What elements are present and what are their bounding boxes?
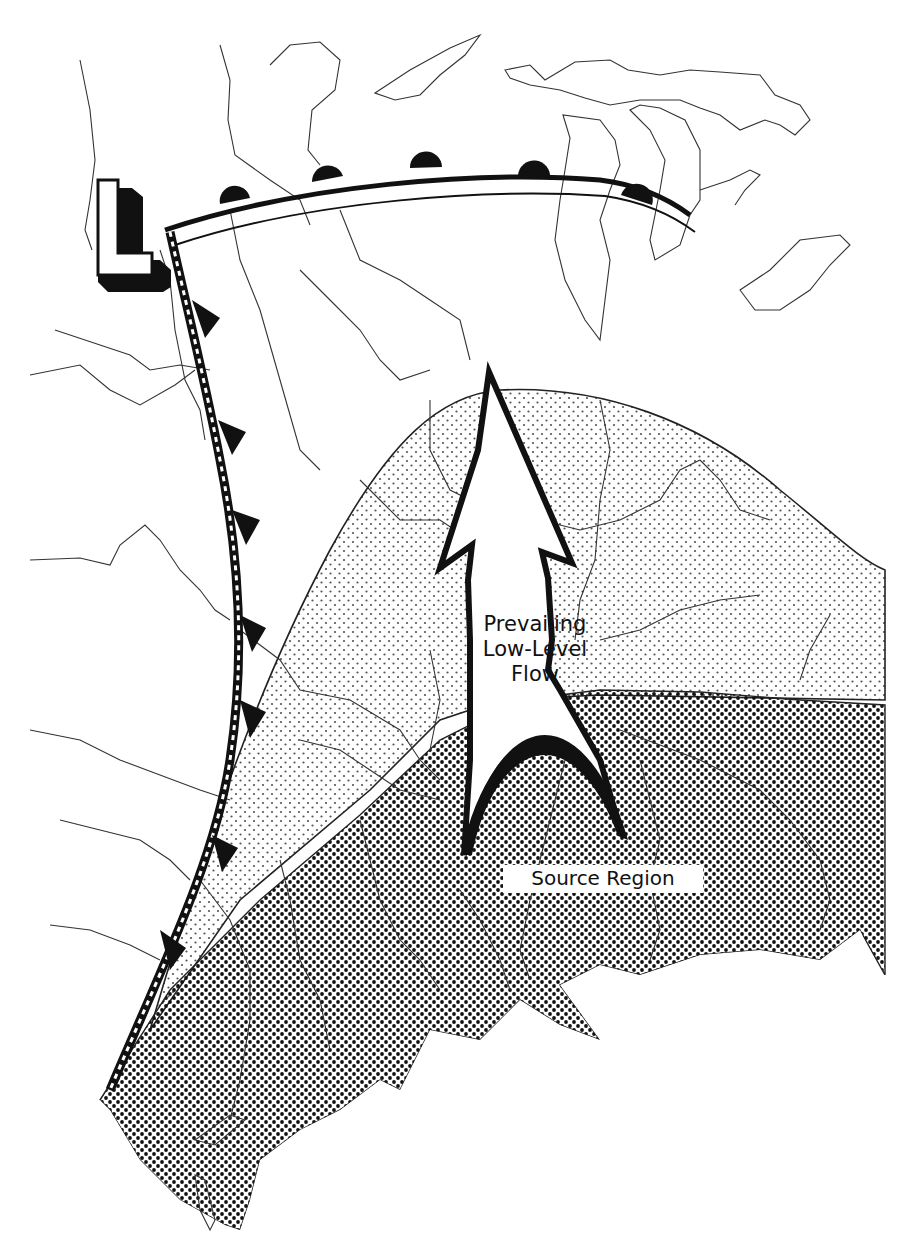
- source-region-label: Source Region: [503, 865, 703, 893]
- flow-label: Prevailing Low-Level Flow: [450, 612, 620, 686]
- source-region-text: Source Region: [503, 867, 703, 891]
- warm-front: [165, 152, 695, 245]
- flow-label-line-1: Prevailing: [450, 612, 620, 637]
- low-pressure-icon: [98, 180, 171, 292]
- flow-label-line-2: Low-Level: [450, 637, 620, 662]
- flow-label-line-3: Flow: [450, 662, 620, 687]
